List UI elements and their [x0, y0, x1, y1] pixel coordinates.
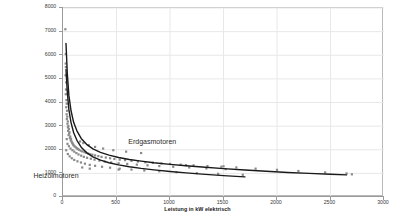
scatter-point [118, 168, 120, 170]
x-tick-mark [62, 197, 63, 200]
y-tick-label: 7000 [2, 28, 56, 33]
scatter-point [89, 168, 91, 170]
scatter-point [67, 153, 69, 155]
scatter-point [66, 123, 68, 125]
scatter-point [119, 159, 121, 161]
scatter-point [140, 152, 142, 154]
x-axis-title: Leistung in kW elektrisch [0, 206, 395, 212]
scatter-point [276, 169, 278, 171]
scatter-point [68, 145, 70, 147]
scatter-point [297, 170, 299, 172]
scatter-point [71, 157, 73, 159]
series-label-heizoelmotoren: Heizölmotoren [33, 172, 78, 179]
scatter-point [84, 163, 86, 165]
x-tick-label: 2000 [256, 200, 296, 205]
scatter-point [112, 149, 114, 151]
scatter-point [73, 151, 75, 153]
scatter-point [101, 166, 103, 168]
scatter-point [100, 156, 102, 158]
chart-plot-svg [63, 8, 384, 197]
y-tick-label: 6000 [2, 52, 56, 57]
scatter-point [81, 150, 83, 152]
y-tick-mark [59, 31, 62, 32]
y-tick-label: 2000 [2, 146, 56, 151]
scatter-point [105, 156, 107, 158]
scatter-point [136, 164, 138, 166]
scatter-point [351, 173, 353, 175]
y-tick-mark [59, 54, 62, 55]
scatter-point [130, 168, 132, 170]
scatter-point [97, 155, 99, 157]
scatter-point [94, 154, 96, 156]
scatter-point [94, 146, 96, 148]
scatter-point [172, 166, 174, 168]
y-tick-mark [59, 102, 62, 103]
scatter-point [83, 156, 85, 158]
x-tick-mark [169, 197, 170, 200]
scatter-point [66, 143, 68, 145]
scatter-point [66, 116, 68, 118]
scatter-point [66, 103, 68, 105]
scatter-point [65, 99, 67, 101]
x-tick-mark [276, 197, 277, 200]
scatter-point [89, 164, 91, 166]
x-tick-mark [116, 197, 117, 200]
scatter-point [255, 168, 257, 170]
scatter-point [93, 159, 95, 161]
scatter-point [69, 147, 71, 149]
y-axis-line [62, 7, 63, 197]
scatter-point [90, 158, 92, 160]
trendline-heizölmotoren [66, 69, 245, 177]
scatter-point [73, 159, 75, 161]
scatter-point [125, 151, 127, 153]
scatter-point [67, 120, 69, 122]
scatter-point [69, 155, 71, 157]
scatter-point [94, 165, 96, 167]
y-tick-mark [59, 78, 62, 79]
scatter-point [76, 160, 78, 162]
scatter-point [109, 167, 111, 169]
y-tick-label: 4000 [2, 99, 56, 104]
scatter-point [143, 169, 145, 171]
scatter-point [80, 155, 82, 157]
scatter-point [65, 93, 67, 95]
y-tick-label: 3000 [2, 123, 56, 128]
scatter-point [66, 118, 68, 120]
x-tick-label: 3000 [363, 200, 395, 205]
scatter-point [113, 158, 115, 160]
x-tick-mark [330, 197, 331, 200]
scatter-point [235, 166, 237, 168]
scatter-point [146, 164, 148, 166]
trendline-curves [66, 43, 347, 176]
x-tick-label: 1000 [149, 200, 189, 205]
y-tick-label: 5000 [2, 75, 56, 80]
y-tick-mark [59, 149, 62, 150]
scatter-point [75, 152, 77, 154]
x-tick-label: 0 [42, 200, 82, 205]
x-tick-label: 2500 [310, 200, 350, 205]
scatter-point [64, 28, 66, 30]
scatter-point [242, 174, 244, 176]
scatter-point [220, 166, 222, 168]
scatter-point [324, 171, 326, 173]
scatter-point [66, 113, 68, 115]
y-tick-mark [59, 125, 62, 126]
scatter-point [68, 128, 70, 130]
scatter-point [126, 163, 128, 165]
x-tick-label: 500 [96, 200, 136, 205]
x-tick-mark [223, 197, 224, 200]
y-tick-label: 8000 [2, 4, 56, 9]
scatter-point [65, 106, 67, 108]
y-tick-mark [59, 7, 62, 8]
scatter-point [222, 165, 224, 167]
scatter-point [81, 166, 83, 168]
x-tick-label: 1500 [203, 200, 243, 205]
scatter-point [158, 165, 160, 167]
scatter-point [66, 138, 68, 140]
scatter-point [66, 110, 68, 112]
chart-container: 800070006000500040003000200010000 050010… [0, 0, 395, 216]
scatter-point [109, 157, 111, 159]
series-label-erdgasmotoren: Erdgasmotoren [128, 138, 176, 145]
scatter-point [79, 140, 81, 142]
scatter-point [65, 149, 67, 151]
